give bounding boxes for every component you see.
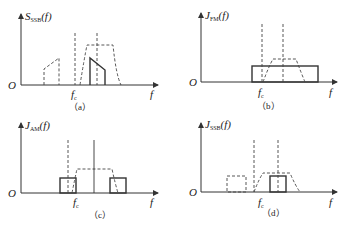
caption: （b）: [257, 101, 280, 111]
caption: （d）: [262, 208, 285, 218]
upper-sideband: [90, 58, 105, 85]
y-axis-label: JFM(f): [205, 9, 229, 22]
origin-label: O: [189, 76, 197, 88]
carrier-label: fc: [71, 88, 77, 101]
upper-sideband: [270, 176, 286, 192]
origin-label: O: [8, 187, 16, 199]
carrier-label: fc: [73, 196, 79, 209]
lower-sideband: [227, 176, 246, 192]
x-axis-label: f: [329, 196, 334, 208]
caption: （a）: [69, 102, 91, 112]
y-axis-label: SSSB(f): [25, 10, 52, 23]
y-axis-label: JSSB(f): [205, 118, 231, 131]
filter-response: [263, 59, 305, 82]
caption: （c）: [89, 210, 111, 220]
panel-a: SSSB(f) O f fc （a）: [8, 10, 158, 112]
y-axis-label: JAM(f): [25, 119, 50, 132]
origin-label: O: [8, 79, 16, 91]
panel-d: JSSB(f) O f fc （d）: [189, 118, 337, 218]
panel-b: JFM(f) O f fc （b）: [189, 9, 337, 111]
origin-label: O: [189, 186, 197, 198]
filter-response: [80, 45, 121, 85]
lower-sideband: [44, 58, 59, 85]
x-axis-label: f: [329, 86, 334, 98]
x-axis-label: f: [150, 196, 155, 208]
carrier-label: fc: [258, 86, 264, 99]
spectrum-diagrams: SSSB(f) O f fc （a） JFM(f) O f fc （b） JAM…: [0, 0, 347, 225]
panel-c: JAM(f) O f fc （c）: [8, 119, 158, 220]
x-axis-label: f: [150, 88, 155, 100]
filter-response: [72, 169, 118, 193]
upper-sideband: [110, 178, 126, 193]
